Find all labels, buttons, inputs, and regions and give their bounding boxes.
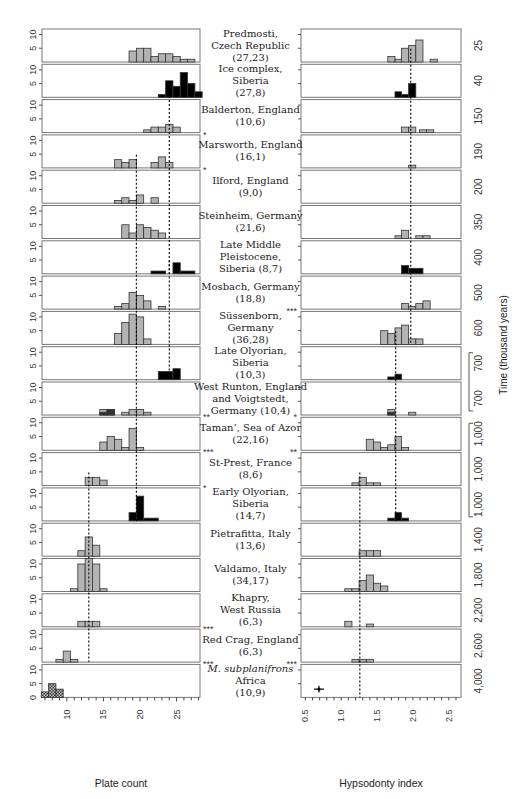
histogram-bar <box>409 412 416 415</box>
x-tick-label: 20 <box>135 709 145 719</box>
x-tick-label: 10 <box>62 709 72 719</box>
histogram-bar <box>92 564 99 592</box>
site-label: (13,6) <box>235 540 265 551</box>
y-tick-label: 5 <box>28 575 38 580</box>
y-tick-label: 10 <box>28 29 38 39</box>
histogram-bar <box>401 304 408 310</box>
panel-row: 510Predmosti,Czech Republic(27,23)25 <box>28 28 484 63</box>
histogram-bar <box>100 480 107 486</box>
significance-marker: *** <box>203 624 214 634</box>
histogram-bar <box>136 317 143 345</box>
histogram-bar <box>401 325 408 344</box>
right-panel-frame <box>301 206 461 239</box>
histogram-bar <box>173 369 180 380</box>
left-panel-frame <box>42 206 200 239</box>
histogram-bar <box>144 301 151 309</box>
panel-row: 510Ice complex,Siberia(27,8)40 <box>28 63 484 98</box>
histogram-bar <box>430 59 437 62</box>
histogram-bar <box>144 48 151 62</box>
histogram-bar <box>92 545 99 556</box>
histogram-bar <box>401 48 408 62</box>
time-label: 1,400 <box>473 527 484 552</box>
histogram-bar <box>158 306 165 309</box>
histogram-bar <box>401 266 408 274</box>
histogram-bar <box>416 339 423 345</box>
histogram-bar <box>409 127 416 133</box>
histogram-bar <box>416 40 423 62</box>
left-panel-frame <box>42 594 200 627</box>
y-tick-label: 5 <box>28 469 38 474</box>
time-label: 150 <box>473 107 484 124</box>
histogram-bar <box>122 412 129 415</box>
site-label: (10,6) <box>235 116 265 127</box>
histogram-bar <box>78 621 85 627</box>
left-panel-frame <box>42 523 200 556</box>
right-panel-frame <box>301 664 461 697</box>
histogram-bar <box>416 304 423 310</box>
y-tick-label: 5 <box>28 646 38 651</box>
right-panel-frame <box>301 29 461 62</box>
site-label: M. subplanifrons <box>207 663 294 674</box>
histogram-bar <box>78 564 85 592</box>
histogram-bar <box>85 559 92 592</box>
site-label: Valdamo, Italy <box>213 563 287 574</box>
histogram-bar <box>144 339 151 345</box>
histogram-bar <box>373 442 380 450</box>
histogram-bar-dark <box>100 412 107 415</box>
time-label: 400 <box>473 249 484 266</box>
histogram-bar <box>409 339 416 345</box>
right-panel-frame <box>301 170 461 203</box>
site-label: Germany <box>227 322 274 333</box>
histogram-bar <box>366 659 373 662</box>
site-label: Khapry, <box>231 592 270 603</box>
right-panel-frame <box>301 100 461 133</box>
histogram-bar <box>71 589 78 592</box>
significance-marker: ** <box>203 412 211 422</box>
site-label: West Runton, England <box>194 381 308 392</box>
histogram-bar <box>401 448 408 451</box>
time-label: 1,000 <box>473 456 484 481</box>
histogram-bar <box>151 198 158 204</box>
histogram-bar <box>173 86 180 97</box>
right-x-axis-label: Hypsodonty index <box>339 777 423 789</box>
histogram-bar <box>180 59 187 62</box>
histogram-bar <box>366 624 373 627</box>
x-tick-label: 2.5 <box>444 709 454 722</box>
x-tick-label: 2.0 <box>408 709 418 722</box>
time-label: 2,200 <box>473 597 484 622</box>
y-tick-label: 10 <box>28 241 38 251</box>
right-panel-frame <box>301 276 461 309</box>
panel-row: 510Valdamo, Italy(34,17)1,800 <box>28 559 484 592</box>
site-label: Taman’, Sea of Azor <box>200 422 302 433</box>
significance-marker: *** <box>203 447 214 457</box>
y-tick-label: 5 <box>28 505 38 510</box>
histogram-bar <box>129 428 136 450</box>
site-label: Czech Republic <box>211 40 290 51</box>
histogram-bar-dark <box>107 410 114 416</box>
site-label: Siberia (8,7) <box>219 263 282 274</box>
panel-row: 510Ilford, England(9,0)200 <box>28 170 484 203</box>
histogram-bar <box>114 333 121 344</box>
site-label: (8,6) <box>239 469 263 480</box>
site-label: Germany (10,4) <box>211 405 291 416</box>
left-panel-frame <box>42 559 200 592</box>
histogram-bar <box>180 271 195 274</box>
histogram-bar <box>173 57 180 63</box>
histogram-bar <box>158 371 173 379</box>
left-x-axis-label: Plate count <box>95 777 148 789</box>
time-axis-label: Time (thousand years) <box>498 295 509 395</box>
time-label: 190 <box>473 143 484 160</box>
site-label: Mosbach, Germany <box>201 281 300 292</box>
site-label: (27,23) <box>232 52 269 63</box>
y-tick-label: 10 <box>28 382 38 392</box>
time-label: 25 <box>473 40 484 52</box>
histogram-bar <box>122 162 129 168</box>
histogram-bar <box>136 448 143 451</box>
histogram-bar <box>381 331 388 345</box>
histogram-bar <box>409 165 416 168</box>
y-tick-label: 5 <box>28 222 38 227</box>
y-tick-label: 5 <box>28 681 38 686</box>
panel-row: 510West Runton, Englandand Voigtstedt,Ge… <box>28 381 484 423</box>
panel-row: 510Balderton, England(10,6)150* <box>28 100 484 140</box>
histogram-bar <box>100 442 107 450</box>
